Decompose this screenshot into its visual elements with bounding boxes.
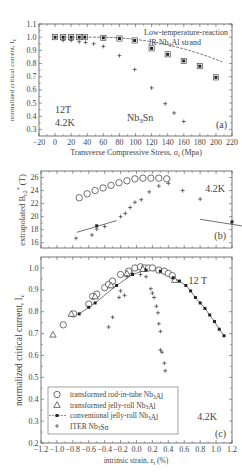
panel-b-ticks: 161820222426 <box>31 171 233 248</box>
circle-marker <box>76 195 82 201</box>
filled-square-marker <box>213 320 216 323</box>
x-tick-label: 80 <box>115 138 123 147</box>
plus-marker <box>107 325 111 329</box>
plus-marker <box>150 291 154 295</box>
panel-b-chart: 161820222426 4.2K (b) extrapolated Bc2* … <box>16 171 242 248</box>
circle-marker <box>108 182 114 188</box>
circle-marker <box>132 176 138 182</box>
circle-marker <box>156 175 162 181</box>
filled-square-marker <box>184 284 187 287</box>
circle-marker <box>116 180 122 186</box>
y-tick-label: 16 <box>31 238 39 247</box>
panel-a-nb3sn-label: Nb3Sn <box>127 112 153 125</box>
circle-marker <box>54 391 60 397</box>
filled-square-marker <box>87 306 90 309</box>
filled-square-marker <box>194 296 197 299</box>
plus-marker <box>92 42 96 46</box>
panel-c-label: (c) <box>215 428 226 440</box>
x-tick-label: 0.2 <box>147 445 157 454</box>
plus-marker <box>123 293 127 297</box>
x-tick-label: 20 <box>67 138 75 147</box>
plus-marker <box>181 189 185 193</box>
y-tick-label: 0.3 <box>27 125 37 134</box>
x-tick-label: −20 <box>33 138 46 147</box>
panel-a-annotation-2: JR Nb3Al strand <box>148 38 201 48</box>
y-tick-label: 0.4 <box>29 395 39 404</box>
panel-a-y-axis-label: normalized critical current, Ic <box>8 38 17 121</box>
y-tick-label: 1.0 <box>27 33 37 42</box>
filled-square-marker <box>203 307 206 310</box>
panel-c-chart: −1.2−1.0−0.8−0.6−0.4−0.20.00.20.40.60.81… <box>14 257 237 466</box>
plus-marker <box>182 120 186 124</box>
panel-c-y-axis-label: normalized critical current, Ic <box>14 294 26 406</box>
filled-square-marker <box>189 289 192 292</box>
y-tick-label: 0.9 <box>27 46 37 55</box>
plus-marker <box>74 236 78 240</box>
panel-a-label: (a) <box>216 119 227 131</box>
x-tick-label: −0.2 <box>113 445 128 454</box>
x-tick-label: 220 <box>226 138 238 147</box>
x-tick-label: 40 <box>83 138 91 147</box>
circle-marker <box>100 185 106 191</box>
panel-a-x-axis-label: Transverse Compressive Stress, σt (Mpa) <box>70 148 202 158</box>
filled-square-marker <box>223 334 226 337</box>
filled-square-marker <box>178 280 181 283</box>
legend-label: transformed rod-in-tube Nb3Al <box>70 390 163 401</box>
legend-label: ITER Nb3Sn <box>70 422 109 433</box>
y-tick-label: 0.6 <box>27 85 37 94</box>
legend-item: transformed jelly-roll Nb3Al <box>54 401 156 412</box>
plus-marker <box>198 197 202 201</box>
y-tick-label: 0.4 <box>27 112 37 121</box>
panel-b-label: (b) <box>214 230 226 242</box>
x-tick-label: −1.0 <box>50 445 65 454</box>
circle-marker <box>124 178 130 184</box>
plus-marker <box>139 198 143 202</box>
circle-marker <box>148 175 154 181</box>
circle-marker <box>92 187 98 193</box>
y-tick-label: 0.3 <box>29 417 39 426</box>
x-tick-label: 0 <box>53 138 57 147</box>
panel-b-temp-annotation: 4.2K <box>205 183 226 194</box>
panel-a-annotation-1: Low-temperature-reaction <box>144 28 228 37</box>
circle-marker <box>84 191 90 197</box>
x-tick-label: 0.6 <box>179 445 189 454</box>
y-tick-label: 0.9 <box>29 285 39 294</box>
plus-marker <box>119 215 123 219</box>
x-tick-label: 120 <box>146 138 158 147</box>
x-tick-label: 160 <box>178 138 190 147</box>
plus-marker <box>163 102 167 106</box>
y-tick-label: 0.8 <box>29 307 39 316</box>
plus-marker <box>149 287 153 291</box>
panel-a-chart: −200204060801001201401601802002200.30.40… <box>8 20 238 158</box>
x-tick-label: 180 <box>194 138 206 147</box>
legend-label: conventional jelly-roll Nb3Al <box>70 411 158 422</box>
triangle-marker <box>50 331 56 337</box>
panel-c-legend: transformed rod-in-tube Nb3Altransformed… <box>48 387 178 434</box>
x-tick-label: 0.4 <box>163 445 173 454</box>
y-tick-label: 1.0 <box>29 264 39 273</box>
plus-marker <box>147 190 151 194</box>
plus-marker <box>123 211 127 215</box>
x-tick-label: 1.2 <box>227 445 237 454</box>
x-tick-label: 100 <box>130 138 142 147</box>
filled-square-marker <box>231 220 234 223</box>
filled-square-marker <box>218 328 221 331</box>
plus-marker <box>77 40 81 44</box>
x-tick-label: −0.6 <box>81 445 96 454</box>
panel-c-temp-annotation: 4.2K <box>197 411 218 422</box>
y-tick-label: 0.5 <box>27 99 37 108</box>
plus-marker <box>111 315 115 319</box>
plus-marker <box>133 200 137 204</box>
filled-square-marker <box>56 414 59 417</box>
filled-square-marker <box>94 301 97 304</box>
x-tick-label: −0.8 <box>66 445 81 454</box>
filled-square-marker <box>172 276 175 279</box>
plus-marker <box>158 329 162 333</box>
plus-marker <box>154 304 158 308</box>
filled-square-marker <box>145 269 148 272</box>
circle-marker <box>60 322 66 328</box>
plus-marker <box>138 273 142 277</box>
y-tick-label: 0.7 <box>29 329 39 338</box>
x-tick-label: 0.0 <box>132 445 142 454</box>
plus-marker <box>90 233 94 237</box>
